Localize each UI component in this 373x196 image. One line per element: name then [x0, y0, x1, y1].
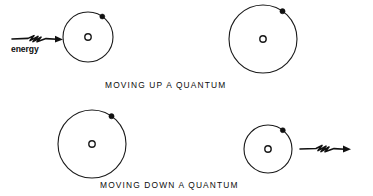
energy-arrow-incoming-icon	[12, 36, 63, 43]
electron-dot-icon	[280, 9, 285, 14]
nucleus-icon	[260, 36, 266, 42]
quantum-transition-diagram: energy MOVING UP A QUANTUM	[0, 0, 373, 196]
nucleus-icon	[85, 34, 91, 40]
orbit-circle-small	[244, 125, 292, 173]
nucleus-icon	[265, 146, 271, 152]
electron-dot-icon	[100, 14, 105, 19]
diagram-canvas: energy MOVING UP A QUANTUM	[0, 0, 373, 196]
caption-moving-down: MOVING DOWN A QUANTUM	[100, 180, 239, 190]
atom-bottom-left	[58, 110, 126, 178]
atom-top-right	[229, 5, 297, 73]
nucleus-icon	[89, 141, 95, 147]
energy-label: energy	[11, 44, 39, 54]
atom-bottom-right	[244, 125, 292, 173]
atom-top-left	[63, 12, 113, 62]
orbit-circle-small	[63, 12, 113, 62]
orbit-circle-large	[229, 5, 297, 73]
caption-moving-up: MOVING UP A QUANTUM	[105, 80, 226, 90]
electron-dot-icon	[280, 128, 285, 133]
energy-arrow-outgoing-icon	[300, 145, 351, 152]
electron-dot-icon	[109, 114, 114, 119]
orbit-circle-large	[58, 110, 126, 178]
